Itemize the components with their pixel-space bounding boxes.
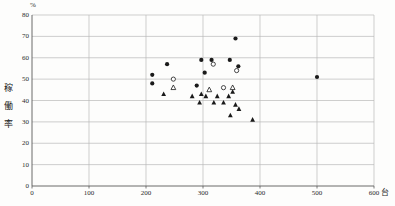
filled-triangle-point — [250, 117, 255, 122]
filled-circle-point — [195, 83, 199, 87]
x-tick-label: 0 — [30, 190, 34, 197]
filled-triangle-point — [233, 102, 238, 107]
open-circle-point — [221, 86, 225, 90]
x-axis-unit-label: 台 — [381, 189, 389, 197]
y-tick-label: 40 — [13, 97, 29, 104]
open-triangle-point — [207, 87, 212, 92]
filled-triangle-point — [203, 94, 208, 99]
filled-triangle-point — [237, 106, 242, 111]
x-tick-label: 600 — [369, 190, 380, 197]
y-tick-label: 80 — [13, 12, 29, 19]
filled-circle-point — [203, 71, 207, 75]
scatter-plot-figure: % 稼 働 率 台 01020304050607080 010020030040… — [0, 0, 395, 206]
y-axis-title-char-3: 率 — [4, 120, 13, 129]
filled-circle-point — [315, 75, 319, 79]
filled-circle-point — [199, 58, 203, 62]
filled-triangle-point — [226, 94, 231, 99]
filled-circle-point — [236, 64, 240, 68]
x-tick-label: 200 — [141, 190, 152, 197]
filled-circle-point — [209, 58, 213, 62]
filled-circle-point — [228, 58, 232, 62]
open-circle-point — [211, 62, 215, 66]
y-tick-label: 20 — [13, 140, 29, 147]
y-tick-label: 50 — [13, 76, 29, 83]
filled-triangle-point — [190, 94, 195, 99]
open-triangle-point — [230, 85, 235, 90]
open-circle-point — [171, 77, 175, 81]
y-axis-title-char-1: 稼 — [4, 84, 13, 93]
y-tick-label: 30 — [13, 118, 29, 125]
x-tick-label: 300 — [198, 190, 209, 197]
filled-triangle-point — [215, 94, 220, 99]
y-tick-label: 10 — [13, 161, 29, 168]
y-tick-label: 0 — [13, 183, 29, 190]
y-axis-title-char-2: 働 — [4, 102, 13, 111]
open-circle-point — [235, 68, 239, 72]
filled-circle-point — [150, 81, 154, 85]
filled-circle-point — [150, 73, 154, 77]
y-tick-label: 60 — [13, 54, 29, 61]
x-tick-label: 500 — [312, 190, 323, 197]
x-tick-label: 100 — [84, 190, 95, 197]
filled-circle-point — [165, 62, 169, 66]
y-tick-label: 70 — [13, 33, 29, 40]
filled-circle-point — [233, 36, 237, 40]
open-triangle-point — [171, 85, 176, 90]
filled-triangle-point — [228, 113, 233, 118]
filled-triangle-point — [161, 91, 166, 96]
y-axis-percent-label: % — [30, 2, 36, 9]
scatter-chart-canvas — [0, 0, 395, 206]
x-tick-label: 400 — [255, 190, 266, 197]
